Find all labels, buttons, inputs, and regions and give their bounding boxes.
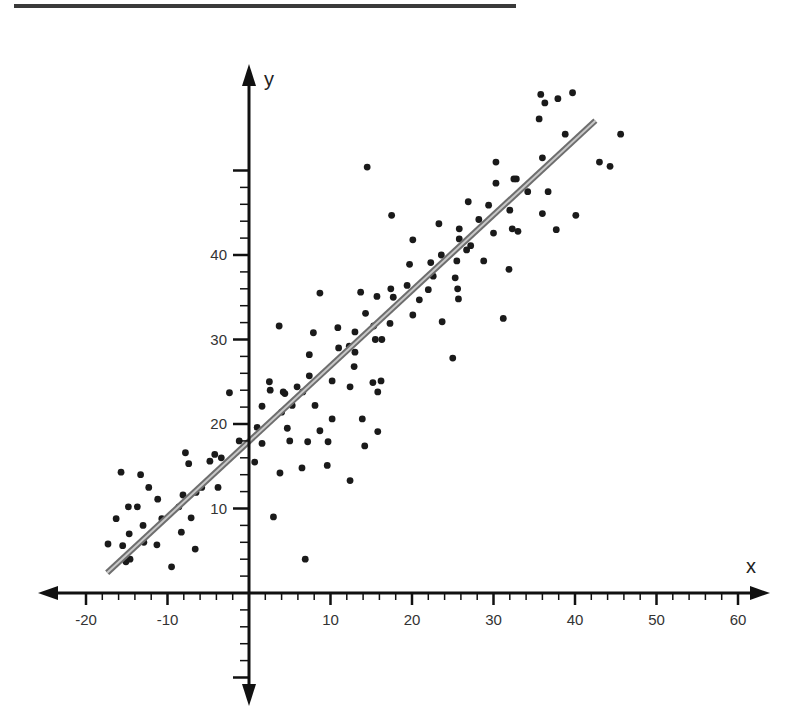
data-point [276, 323, 283, 330]
data-point [266, 378, 273, 385]
data-point [572, 212, 579, 219]
data-point [185, 460, 192, 467]
data-point [284, 425, 291, 432]
data-point [374, 388, 381, 395]
y-tick-label: 10 [210, 500, 227, 517]
data-point [490, 230, 497, 237]
data-point [126, 530, 133, 537]
data-point [226, 389, 233, 396]
data-point [425, 286, 432, 293]
data-point [312, 402, 319, 409]
x-axis-label: x [746, 555, 756, 577]
data-point [409, 312, 416, 319]
x-tick-label: -10 [157, 611, 179, 628]
y-axis-label: y [264, 68, 274, 90]
data-point [357, 289, 364, 296]
data-point [362, 310, 369, 317]
data-point [493, 180, 500, 187]
data-point [372, 336, 379, 343]
data-point [359, 416, 366, 423]
y-tick-label: 30 [210, 331, 227, 348]
data-point [335, 345, 342, 352]
data-point [154, 541, 161, 548]
data-point [387, 285, 394, 292]
data-point [134, 503, 141, 510]
data-point [270, 514, 277, 521]
tick-labels: -20-1010203040506010203040 [75, 246, 746, 628]
data-point [306, 351, 313, 358]
data-point [539, 210, 546, 217]
data-point [409, 236, 416, 243]
data-point [361, 443, 368, 450]
data-points [105, 89, 624, 570]
data-point [454, 285, 461, 292]
data-point [369, 379, 376, 386]
data-point [286, 438, 293, 445]
data-point [182, 449, 189, 456]
y-tick-label: 40 [210, 246, 227, 263]
y-tick-label: 20 [210, 415, 227, 432]
data-point [154, 496, 161, 503]
data-point [456, 225, 463, 232]
x-tick-label: 40 [567, 611, 584, 628]
data-point [347, 477, 354, 484]
data-point [119, 542, 126, 549]
data-point [188, 514, 195, 521]
data-point [378, 336, 385, 343]
data-point [553, 226, 560, 233]
data-point [554, 95, 561, 102]
data-point [364, 164, 371, 171]
data-point [607, 163, 614, 170]
scatter-chart: -20-1010203040506010203040 x y [0, 0, 799, 725]
data-point [304, 438, 311, 445]
data-point [452, 274, 459, 281]
x-axis-right-arrow-icon [750, 586, 770, 600]
x-axis-left-arrow-icon [38, 586, 58, 600]
x-tick-label: 10 [322, 611, 339, 628]
data-point [259, 403, 266, 410]
data-point [211, 451, 218, 458]
data-point [105, 541, 112, 548]
data-point [145, 484, 152, 491]
data-point [259, 440, 266, 447]
data-point [541, 100, 548, 107]
data-point [351, 363, 358, 370]
data-point [352, 349, 359, 356]
x-tick-label: -20 [75, 611, 97, 628]
data-point [406, 261, 413, 268]
data-point [294, 383, 301, 390]
y-axis-up-arrow-icon [242, 64, 256, 86]
data-point [480, 258, 487, 265]
data-point [125, 503, 132, 510]
data-point [439, 318, 446, 325]
data-point [500, 315, 507, 322]
data-point [317, 427, 324, 434]
data-point [485, 202, 492, 209]
data-point [277, 470, 284, 477]
data-point [506, 207, 513, 214]
data-point [324, 462, 331, 469]
data-point [537, 91, 544, 98]
data-point [617, 131, 624, 138]
data-point [113, 515, 120, 522]
data-point [334, 324, 341, 331]
data-point [475, 216, 482, 223]
x-tick-label: 30 [485, 611, 502, 628]
data-point [536, 116, 543, 123]
data-point [562, 131, 569, 138]
data-point [267, 387, 274, 394]
data-point [215, 484, 222, 491]
data-point [453, 258, 460, 265]
data-point [387, 320, 394, 327]
data-point [596, 159, 603, 166]
x-tick-label: 60 [730, 611, 747, 628]
data-point [465, 198, 472, 205]
axes [38, 64, 770, 706]
data-point [118, 469, 125, 476]
data-point [306, 372, 313, 379]
data-point [374, 428, 381, 435]
data-point [378, 378, 385, 385]
data-point [317, 290, 324, 297]
data-point [493, 159, 500, 166]
data-point [374, 293, 381, 300]
